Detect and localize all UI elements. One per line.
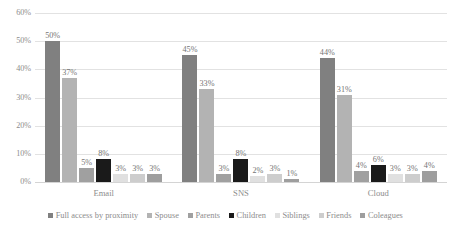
bar-groups: 50%37%5%8%3%3%3%Email45%33%3%8%2%3%1%SNS… [35, 0, 447, 200]
y-axis-tick-label: 10% [16, 150, 31, 158]
bar-value-label: 6% [373, 155, 384, 164]
bar[interactable] [62, 78, 77, 182]
bars-container: 45%33%3%8%2%3%1% [172, 13, 309, 182]
legend-label: Children [237, 211, 266, 220]
bar[interactable] [284, 179, 299, 182]
legend-item[interactable]: Friends [319, 211, 352, 220]
legend-label: Coleagues [368, 211, 403, 220]
plot-area: 0%10%20%30%40%50%60% 50%37%5%8%3%3%3%Ema… [0, 0, 451, 200]
legend-swatch-icon [147, 213, 152, 218]
y-axis-tick-label: 20% [16, 122, 31, 130]
bar-value-label: 1% [287, 169, 298, 178]
bar-value-label: 3% [219, 164, 230, 173]
bar-slot: 3% [113, 13, 128, 182]
bar-slot: 5% [79, 13, 94, 182]
y-axis-tick-label: 60% [16, 9, 31, 17]
bar-group: 45%33%3%8%2%3%1%SNS [172, 0, 309, 200]
bar-value-label: 44% [320, 48, 335, 57]
legend-label: Parents [195, 211, 220, 220]
bar-slot: 4% [354, 13, 369, 182]
legend-label: Friends [326, 211, 351, 220]
bar[interactable] [130, 174, 145, 182]
y-axis-tick-label: 30% [16, 94, 31, 102]
bar[interactable] [147, 174, 162, 182]
legend-swatch-icon [188, 213, 193, 218]
legend-swatch-icon [275, 213, 280, 218]
chart-legend: Full access by proximitySpouseParentsChi… [0, 205, 451, 225]
bar[interactable] [422, 171, 437, 182]
legend-item[interactable]: Siblings [275, 211, 310, 220]
legend-item[interactable]: Children [229, 211, 266, 220]
y-axis-tick-label: 40% [16, 65, 31, 73]
bar-value-label: 37% [62, 68, 77, 77]
bar-value-label: 3% [390, 164, 401, 173]
bar[interactable] [337, 95, 352, 182]
bar[interactable] [96, 159, 111, 182]
bars-container: 50%37%5%8%3%3%3% [35, 13, 172, 182]
bar-slot: 37% [62, 13, 77, 182]
x-axis-category-label: Cloud [310, 188, 447, 198]
bar-slot: 3% [388, 13, 403, 182]
bar-value-label: 3% [407, 164, 418, 173]
bar[interactable] [233, 159, 248, 182]
bars-container: 44%31%4%6%3%3%4% [310, 13, 447, 182]
bar-slot: 3% [147, 13, 162, 182]
bar-slot: 6% [371, 13, 386, 182]
bar-slot: 31% [337, 13, 352, 182]
bar-value-label: 5% [81, 158, 92, 167]
legend-item[interactable]: Coleagues [360, 211, 402, 220]
x-axis-category-label: SNS [172, 188, 309, 198]
bar-value-label: 8% [98, 149, 109, 158]
bar-slot: 50% [45, 13, 60, 182]
bar[interactable] [250, 176, 265, 182]
bar[interactable] [79, 168, 94, 182]
bar-value-label: 8% [236, 149, 247, 158]
x-axis-category-label: Email [35, 188, 172, 198]
bar[interactable] [113, 174, 128, 182]
bar-slot: 4% [422, 13, 437, 182]
bar[interactable] [405, 174, 420, 182]
bar[interactable] [45, 41, 60, 182]
bar-value-label: 50% [45, 31, 60, 40]
bar[interactable] [182, 55, 197, 182]
bar-value-label: 3% [132, 164, 143, 173]
bar-value-label: 3% [115, 164, 126, 173]
y-axis: 0%10%20%30%40%50%60% [0, 0, 34, 200]
bar-slot: 45% [182, 13, 197, 182]
bar-slot: 8% [96, 13, 111, 182]
bar-slot: 8% [233, 13, 248, 182]
legend-swatch-icon [48, 213, 53, 218]
bar[interactable] [199, 89, 214, 182]
legend-item[interactable]: Parents [188, 211, 220, 220]
bar-slot: 44% [320, 13, 335, 182]
bar-group: 44%31%4%6%3%3%4%Cloud [310, 0, 447, 200]
bar-value-label: 3% [270, 164, 281, 173]
legend-item[interactable]: Spouse [147, 211, 179, 220]
bar[interactable] [267, 174, 282, 182]
bar[interactable] [320, 58, 335, 182]
legend-item[interactable]: Full access by proximity [48, 211, 138, 220]
bar[interactable] [354, 171, 369, 182]
bar[interactable] [216, 174, 231, 182]
bar-slot: 3% [405, 13, 420, 182]
bar-slot: 1% [284, 13, 299, 182]
bar-slot: 3% [216, 13, 231, 182]
bar-value-label: 31% [337, 85, 352, 94]
bar-value-label: 45% [182, 45, 197, 54]
bar-slot: 3% [267, 13, 282, 182]
bar[interactable] [388, 174, 403, 182]
legend-label: Spouse [155, 211, 179, 220]
y-axis-tick-label: 0% [20, 178, 31, 186]
bar-slot: 2% [250, 13, 265, 182]
bar-value-label: 2% [253, 166, 264, 175]
bar[interactable] [371, 165, 386, 182]
legend-label: Siblings [282, 211, 309, 220]
grouped-bar-chart: 0%10%20%30%40%50%60% 50%37%5%8%3%3%3%Ema… [0, 0, 451, 238]
bar-value-label: 3% [149, 164, 160, 173]
bar-group: 50%37%5%8%3%3%3%Email [35, 0, 172, 200]
bar-slot: 3% [130, 13, 145, 182]
bar-value-label: 4% [424, 161, 435, 170]
y-axis-tick-label: 50% [16, 37, 31, 45]
bar-value-label: 33% [199, 79, 214, 88]
legend-label: Full access by proximity [56, 211, 139, 220]
